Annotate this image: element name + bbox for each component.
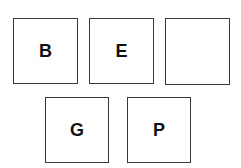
box-letter: P [153, 121, 165, 139]
box-letter: E [115, 42, 127, 60]
box-4: G [45, 97, 109, 163]
box-letter: B [39, 42, 52, 60]
box-2: E [89, 18, 154, 84]
box-3-empty[interactable] [165, 18, 230, 85]
box-5: P [127, 97, 191, 163]
box-1: B [13, 18, 78, 84]
box-letter: G [70, 121, 84, 139]
